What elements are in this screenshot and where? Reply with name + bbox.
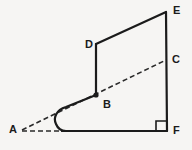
- vertex-label-c: C: [172, 54, 180, 65]
- vertex-label-e: E: [173, 5, 181, 16]
- vertex-label-f: F: [173, 125, 180, 136]
- vertex-dot-b: [93, 92, 98, 97]
- geometry-figure-canvas: A B C D E F: [0, 0, 192, 150]
- vertex-label-d: D: [85, 39, 93, 50]
- vertex-label-b: B: [103, 99, 111, 110]
- figure-vector-graphic: [0, 0, 192, 150]
- vertex-label-a: A: [9, 124, 17, 135]
- edge-e-to-f: [166, 12, 167, 131]
